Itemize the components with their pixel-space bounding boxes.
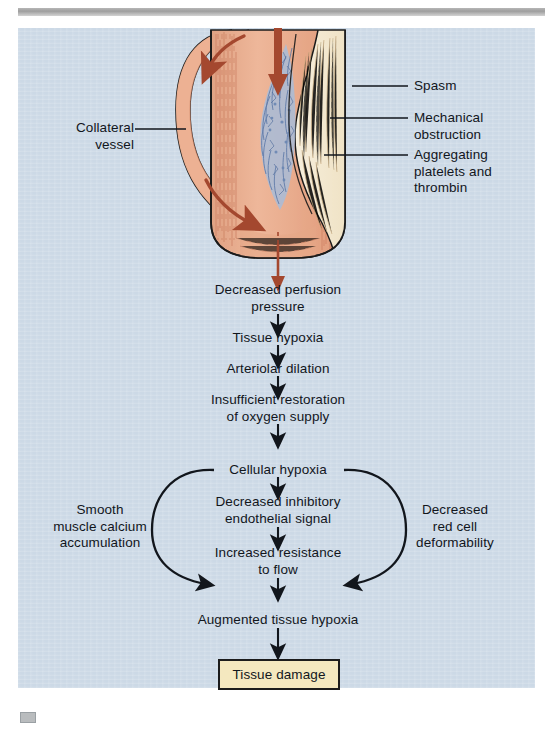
top-rule-divider [18,8,545,16]
step-tissue-hypoxia: Tissue hypoxia [158,330,398,347]
step-decreased-perfusion-pressure: Decreased perfusion pressure [158,282,398,315]
branch-smooth-muscle-calcium-accumulation: Smooth muscle calcium accumulation [25,502,175,552]
step-augmented-tissue-hypoxia: Augmented tissue hypoxia [138,612,418,629]
step-insufficient-restoration-of-oxygen-supply: Insufficient restoration of oxygen suppl… [153,392,403,425]
corner-artifact-mark [20,712,36,723]
step-decreased-inhibitory-endothelial-signal: Decreased inhibitory endothelial signal [153,494,403,527]
branch-decreased-red-cell-deformability: Decreased red cell deformability [385,502,525,552]
step-arteriolar-dilation: Arteriolar dilation [158,361,398,378]
step-cellular-hypoxia: Cellular hypoxia [178,462,378,479]
callout-collateral-vessel: Collateral vessel [36,120,134,153]
callout-spasm: Spasm [414,78,534,95]
callout-mechanical-obstruction: Mechanical obstruction [414,110,534,143]
step-increased-resistance-to-flow: Increased resistance to flow [153,545,403,578]
callout-aggregating-platelets-thrombin: Aggregating platelets and thrombin [414,147,534,197]
outcome-tissue-damage-label: Tissue damage [232,667,325,682]
outcome-tissue-damage-box: Tissue damage [218,659,340,690]
